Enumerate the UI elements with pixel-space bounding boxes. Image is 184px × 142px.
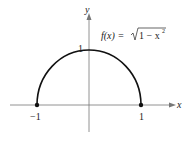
semicircle-graph: x y −1 1 1 f(x) = 1 − x 2	[0, 0, 184, 142]
tick-label-y1: 1	[78, 43, 83, 54]
point-pos1	[139, 103, 143, 107]
function-label: f(x) = 1 − x 2	[101, 28, 166, 42]
point-neg1	[35, 103, 39, 107]
x-axis-arrow-icon	[169, 103, 176, 108]
tick-label-pos1: 1	[139, 111, 144, 122]
function-label-lhs: f(x) =	[101, 30, 124, 42]
y-axis-label: y	[84, 4, 90, 15]
tick-label-neg1: −1	[30, 111, 41, 122]
function-exponent: 2	[162, 28, 165, 34]
function-radicand: 1 − x	[139, 30, 160, 41]
x-axis-label: x	[176, 99, 182, 110]
